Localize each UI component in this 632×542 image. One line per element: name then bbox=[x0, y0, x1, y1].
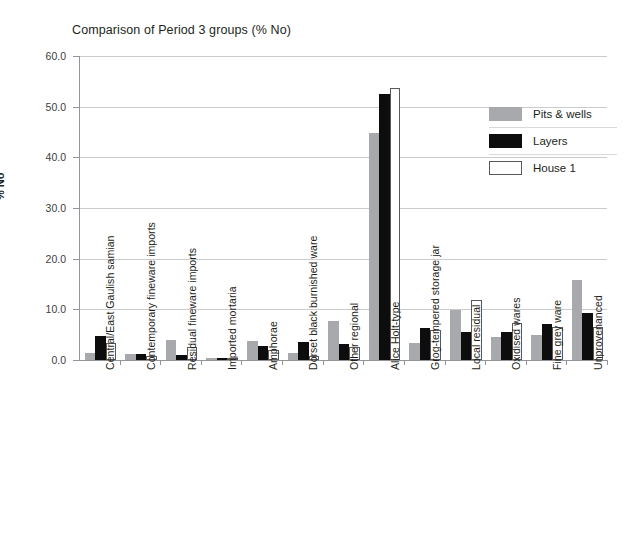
legend-label: Pits & wells bbox=[533, 108, 592, 120]
bar-group bbox=[247, 56, 279, 360]
legend-swatch bbox=[489, 107, 522, 121]
bar-chart: Comparison of Period 3 groups (% No) % N… bbox=[0, 0, 632, 542]
x-axis-tick-mark bbox=[485, 360, 486, 365]
x-axis-tick-mark bbox=[241, 360, 242, 365]
y-axis-tick-label: 10.0 bbox=[6, 303, 66, 315]
bar bbox=[166, 340, 177, 360]
x-axis-category-label: Imported mortaria bbox=[226, 286, 238, 370]
legend-item: Layers bbox=[489, 127, 617, 154]
x-axis-tick-mark bbox=[201, 360, 202, 365]
x-axis-tick-mark bbox=[566, 360, 567, 365]
y-axis-tick-label: 30.0 bbox=[6, 202, 66, 214]
x-axis-category-label: Central/East Gaulish samian bbox=[104, 236, 116, 370]
legend-item: Pits & wells bbox=[489, 100, 617, 127]
y-axis-tick-label: 0.0 bbox=[6, 354, 66, 366]
legend-swatch bbox=[489, 134, 522, 148]
x-axis-category-label: Oxidised wares bbox=[510, 298, 522, 370]
bar bbox=[288, 353, 299, 360]
y-axis-tick-label: 60.0 bbox=[6, 50, 66, 62]
x-axis-line bbox=[79, 360, 607, 361]
x-axis-tick-mark bbox=[607, 360, 608, 365]
bar bbox=[409, 343, 420, 360]
x-axis-tick-mark bbox=[120, 360, 121, 365]
y-axis-tick-label: 50.0 bbox=[6, 101, 66, 113]
y-axis-title: % No bbox=[0, 173, 6, 201]
bar bbox=[531, 335, 542, 360]
bar bbox=[491, 337, 502, 360]
x-axis-category-label: Other regional bbox=[348, 303, 360, 370]
bar bbox=[328, 321, 339, 360]
legend-item: House 1 bbox=[489, 154, 617, 181]
x-axis-category-label: Fine grey ware bbox=[551, 300, 563, 370]
x-axis-tick-mark bbox=[526, 360, 527, 365]
x-axis-category-label: Grog-tempered storage jar bbox=[429, 245, 441, 370]
bar bbox=[85, 353, 96, 360]
x-axis-category-label: Local residual bbox=[470, 305, 482, 371]
x-axis-tick-mark bbox=[363, 360, 364, 365]
x-axis-category-label: Unprovenanced bbox=[592, 295, 604, 370]
x-axis-tick-mark bbox=[282, 360, 283, 365]
x-axis-category-label: Contemporary fineware imports bbox=[145, 222, 157, 370]
x-axis-category-label: Dorset black burnished ware bbox=[307, 236, 319, 370]
x-axis-category-label: Amphorae bbox=[267, 321, 279, 370]
x-axis-tick-mark bbox=[404, 360, 405, 365]
bar bbox=[369, 133, 380, 360]
y-axis-tick-label: 20.0 bbox=[6, 253, 66, 265]
chart-title: Comparison of Period 3 groups (% No) bbox=[72, 23, 291, 37]
legend-label: House 1 bbox=[533, 162, 576, 174]
x-axis-tick-mark bbox=[160, 360, 161, 365]
chart-legend: Pits & wellsLayersHouse 1 bbox=[489, 100, 617, 181]
legend-label: Layers bbox=[533, 135, 568, 147]
y-axis-tick-label: 40.0 bbox=[6, 151, 66, 163]
x-axis-category-label: Residual fineware imports bbox=[186, 248, 198, 370]
x-axis-tick-mark bbox=[323, 360, 324, 365]
x-axis-category-label: Alice Holt-type bbox=[389, 302, 401, 370]
bar bbox=[247, 341, 258, 360]
bar bbox=[450, 310, 461, 360]
legend-swatch bbox=[489, 161, 522, 175]
x-axis-tick-mark bbox=[445, 360, 446, 365]
bar bbox=[572, 280, 583, 360]
